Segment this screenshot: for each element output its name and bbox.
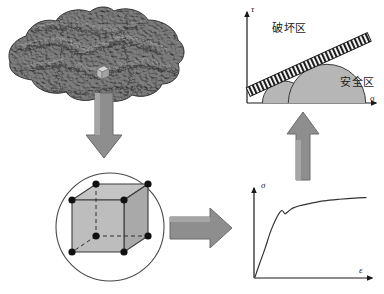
figure-canvas: 破坏区 安全区 τ σ σ ε: [0, 0, 384, 294]
stress-strain-curve: [255, 198, 366, 277]
label-failure-zone: 破坏区: [272, 19, 307, 35]
label-safe-zone: 安全区: [340, 73, 375, 89]
arrow-rev-to-curve: [170, 208, 232, 248]
chart-mohr-coulomb-envelope: [246, 12, 376, 103]
cube-geometry: [72, 184, 148, 252]
axis-label-tau: τ: [251, 4, 254, 14]
diagram-svg: [0, 0, 384, 294]
chart-stress-strain: [254, 188, 372, 278]
axis-label-epsilon: ε: [359, 265, 363, 275]
arrow-curve-to-envelope: [287, 112, 319, 180]
arrow-rock-to-rev: [86, 93, 122, 158]
axis-label-sigma-stress: σ: [261, 180, 265, 190]
axis-label-sigma-shear: σ: [370, 93, 374, 103]
representative-volume-element: [56, 173, 164, 281]
representative-element-cube: [97, 66, 109, 79]
